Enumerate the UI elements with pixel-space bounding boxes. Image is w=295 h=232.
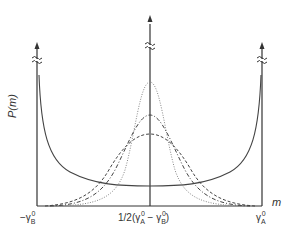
right-arrow-icon bbox=[260, 42, 265, 49]
center-arrow-icon bbox=[148, 15, 153, 22]
x-axis-label: m bbox=[272, 196, 281, 208]
tick-right-label: γA0 bbox=[256, 210, 266, 225]
y-axis-label: P(m) bbox=[6, 94, 18, 118]
tick-center-label: 1/2(γA0 − γB0) bbox=[118, 210, 169, 225]
left-arrow-icon bbox=[35, 42, 40, 49]
distribution-diagram bbox=[0, 0, 295, 232]
tick-left-label: −γB0 bbox=[20, 210, 35, 225]
